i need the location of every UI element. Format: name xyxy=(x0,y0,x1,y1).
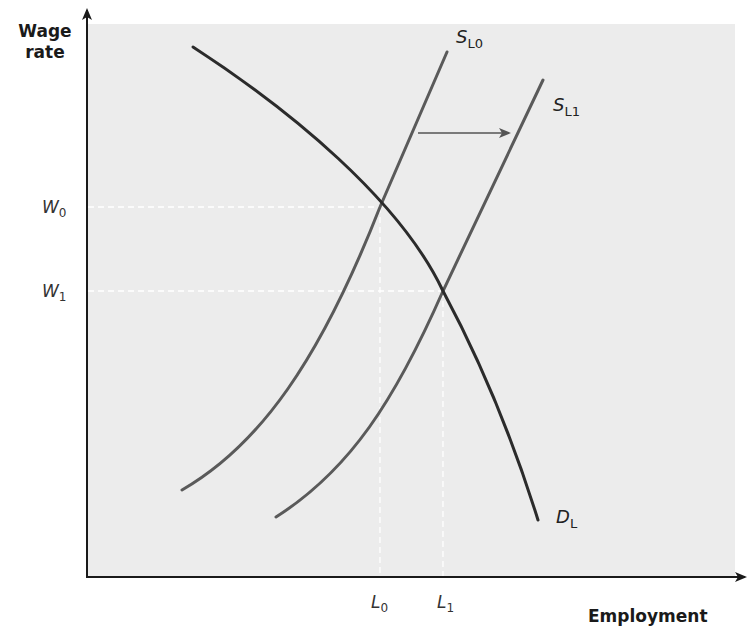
y-axis-title-line2: rate xyxy=(17,42,73,63)
x-tick-l0: L0 xyxy=(371,592,388,615)
labour-market-chart xyxy=(0,0,749,639)
y-axis-title-line1: Wage xyxy=(17,21,73,42)
x-tick-l1: L1 xyxy=(437,592,454,615)
label-sl0: SL0 xyxy=(456,26,483,51)
y-tick-w0: W0 xyxy=(42,197,66,220)
x-axis-title: Employment xyxy=(588,606,708,627)
label-dl: DL xyxy=(556,506,577,531)
plot-area xyxy=(88,24,735,577)
y-axis-title: Wage rate xyxy=(17,21,73,63)
y-tick-w1: W1 xyxy=(42,281,66,304)
label-sl1: SL1 xyxy=(553,94,580,119)
